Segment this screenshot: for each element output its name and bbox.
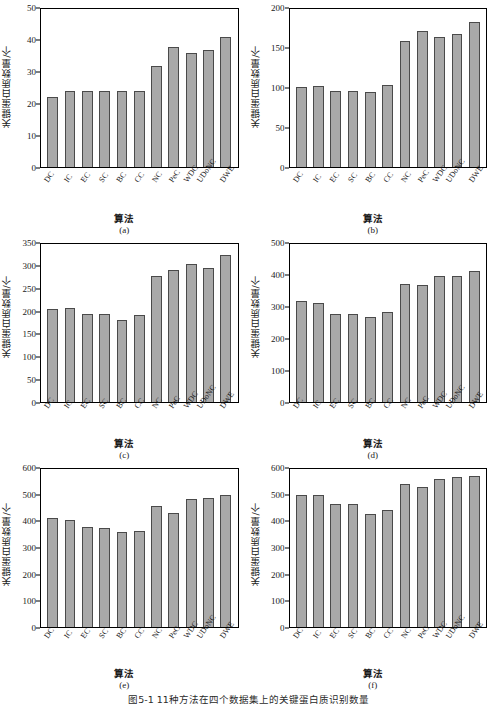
y-tick-label: 400 [271,270,285,280]
bar-cell [96,244,113,402]
bar-cell [466,244,483,402]
x-tick-cell: PeC [166,178,184,210]
x-tick-cell: IC [307,178,325,210]
bar-UDoNC [452,477,463,627]
x-tick-cell: SC [343,178,361,210]
panel-letter: (e) [119,680,129,690]
x-tick-cell: BC [361,178,379,210]
bar-SC [348,91,359,167]
x-tick-cell: DWE [220,634,238,665]
bar-series [290,244,487,402]
bar-PeC [417,285,428,402]
plot-area: 关键蛋白质数量/个01020304050 [0,0,249,178]
bar-cell [293,9,310,167]
y-axis-ticks: 0100200300400500 [263,243,289,403]
bar-cell [131,469,148,627]
bar-PeC [417,31,428,167]
y-tick-label: 300 [23,543,37,553]
bar-cell [113,469,130,627]
plot-area: 关键蛋白质数量/个050100150200250300350 [0,235,249,404]
bar-cell [379,469,396,627]
x-axis-ticks: DCICECSCBCCCNCPeCWDCUDoNCDWE [0,634,249,665]
chart-panel-b: 关键蛋白质数量/个050100150200DCICECSCBCCCNCPeCWD… [249,0,497,235]
plot-box [289,468,488,628]
y-tick-label: 200 [271,570,285,580]
bar-cell [79,469,96,627]
y-tick-label: 100 [271,366,285,376]
bar-SC [99,314,110,402]
panel-letter: (d) [368,450,379,460]
bar-SC [99,91,110,167]
x-tick-cell: BC [112,178,130,210]
bar-cell [362,9,379,167]
chart-panel-a: 关键蛋白质数量/个01020304050DCICECSCBCCCNCPeCWDC… [0,0,249,235]
x-axis-ticks: DCICECSCBCCCNCPeCWDCUDoNCDWE [0,178,249,210]
y-tick-label: 200 [271,334,285,344]
x-tick-cell: BC [112,634,130,665]
x-tick-cell: NC [148,404,166,435]
bar-CC [382,510,393,627]
x-tick-cell: CC [379,178,397,210]
bar-PeC [168,47,179,167]
bar-EC [82,314,93,402]
bar-DWE [469,476,480,627]
x-tick-cell: SC [94,634,112,665]
bar-series [41,244,238,402]
bar-cell [113,244,130,402]
x-tick-cell: CC [379,634,397,665]
y-axis-label: 关键蛋白质数量/个 [249,460,263,634]
x-tick-cell: NC [148,634,166,665]
bar-NC [400,484,411,627]
bar-PeC [168,270,179,402]
y-tick-label: 100 [23,596,37,606]
bar-WDC [186,499,197,628]
bar-cell [148,244,165,402]
bar-cell [431,469,448,627]
bar-cell [61,469,78,627]
x-tick-cell: SC [94,178,112,210]
bar-NC [400,284,411,402]
y-axis-ticks: 0100200300400500600 [263,468,289,628]
bar-cell [79,9,96,167]
bar-cell [466,9,483,167]
bar-EC [330,91,341,167]
y-tick-label: 100 [23,352,37,362]
bar-cell [379,244,396,402]
plot-area: 关键蛋白质数量/个0100200300400500600 [0,460,249,634]
x-axis-label: 算法 [114,211,134,225]
y-axis-ticks: 01020304050 [14,8,40,168]
x-tick-cell: NC [397,404,415,435]
bar-cell [79,244,96,402]
x-tick-cell: PeC [166,634,184,665]
bar-cell [362,244,379,402]
bar-cell [344,469,361,627]
bar-cell [183,244,200,402]
bar-cell [200,9,217,167]
bar-DWE [469,271,480,402]
y-tick-label: 600 [271,463,285,473]
bar-cell [217,244,234,402]
bar-cell [379,9,396,167]
x-tick-cell: EC [76,178,94,210]
bar-UDoNC [452,34,463,168]
bar-cell [183,9,200,167]
bar-IC [65,308,76,402]
subplot-grid: 关键蛋白质数量/个01020304050DCICECSCBCCCNCPeCWDC… [0,0,497,690]
y-tick-label: 40 [27,35,36,45]
bar-cell [310,469,327,627]
x-tick-cell: EC [325,404,343,435]
x-tick-cell: CC [379,404,397,435]
bar-DWE [220,255,231,402]
y-tick-label: 30 [27,67,36,77]
y-tick-label: 100 [271,83,285,93]
bar-DC [296,495,307,627]
panel-letter: (f) [368,680,377,690]
bar-CC [382,85,393,167]
x-axis-label: 算法 [114,436,134,450]
plot-area: 关键蛋白质数量/个0100200300400500600 [249,460,497,634]
bar-cell [327,9,344,167]
y-tick-label: 400 [271,516,285,526]
x-tick-cell: SC [343,404,361,435]
bar-cell [293,469,310,627]
bar-cell [344,244,361,402]
